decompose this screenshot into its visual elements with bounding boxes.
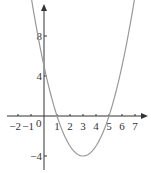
x-tick-label: 4 [93,120,99,132]
x-tick-label: 6 [119,120,125,132]
x-axis [7,113,148,119]
y-axis [41,4,47,170]
x-tick-label: 7 [132,120,138,132]
y-tick-label: 4 [37,70,43,82]
x-tick-label: 3 [80,120,86,132]
origin-label: 0 [36,117,42,129]
y-tick-label: −4 [30,150,42,162]
x-tick-label: −2 [9,120,21,132]
parabola-chart: −2−11234567 84−4 0 [0,0,151,173]
x-tick-label: −1 [22,120,34,132]
x-ticks: −2−11234567 [9,114,138,132]
x-tick-label: 2 [67,120,73,132]
parabola-curve [32,0,135,156]
